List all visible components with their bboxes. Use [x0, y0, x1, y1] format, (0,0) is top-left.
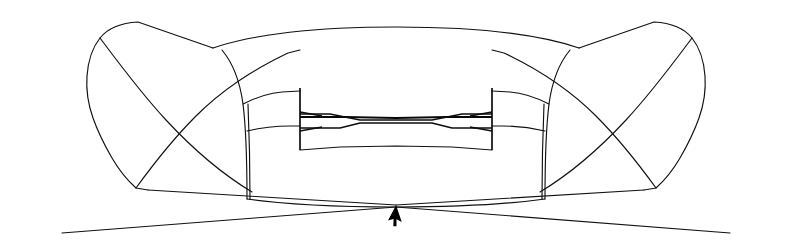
left-flange-top-curve — [243, 91, 300, 104]
left-wing-upper-cross-edge — [136, 50, 300, 188]
right-lower-ray-upper — [396, 190, 644, 205]
bottom-arc-edge — [247, 199, 545, 207]
right-lower-ray-lower — [396, 207, 730, 233]
left-lower-ray-upper — [148, 190, 396, 205]
wireframe-drawing — [0, 0, 792, 247]
left-wing-outer-edge — [87, 22, 213, 190]
right-flange-top-curve — [492, 91, 549, 104]
right-body-inner-drop-edge — [542, 104, 544, 199]
right-wing-upper-cross-edge — [492, 50, 656, 188]
left-lower-ray-lower — [62, 207, 396, 233]
left-body-outer-drop-edge — [222, 50, 247, 199]
left-body-inner-drop-edge — [248, 104, 250, 199]
left-flange-mid-curve — [247, 126, 300, 131]
top-arc-edge — [213, 27, 579, 48]
shaft-center-edge — [300, 117, 492, 118]
right-wing-outer-edge — [579, 22, 705, 190]
right-flange-mid-curve — [492, 126, 545, 131]
wireframe-viewport[interactable] — [0, 0, 792, 247]
shaft-mid-edge — [300, 123, 492, 128]
right-body-outer-drop-edge — [545, 50, 570, 199]
shaft-bottom-edge — [300, 146, 492, 150]
